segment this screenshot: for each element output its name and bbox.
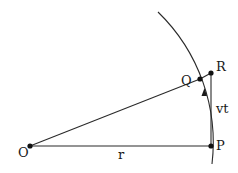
- circular-motion-diagram: O r P vt Q R: [0, 0, 238, 173]
- point-q: [197, 76, 202, 81]
- label-r-radius: r: [118, 147, 125, 162]
- label-p: P: [216, 138, 225, 153]
- arc-path: [158, 12, 213, 164]
- point-p: [208, 143, 213, 148]
- label-vt: vt: [215, 101, 229, 116]
- label-o: O: [18, 145, 29, 160]
- label-r: R: [216, 59, 227, 74]
- segment-oq: [30, 79, 200, 146]
- point-r: [208, 70, 213, 75]
- label-q: Q: [181, 73, 192, 88]
